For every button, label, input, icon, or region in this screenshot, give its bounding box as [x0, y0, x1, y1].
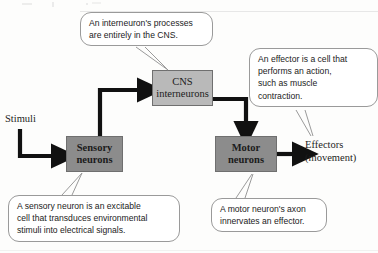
node-sensory-label: Sensory neurons: [77, 142, 113, 167]
node-motor-neurons[interactable]: Motor neurons: [215, 136, 277, 172]
node-motor-label-line1: Motor: [228, 142, 264, 154]
arrow-cns-to-motor: [213, 99, 246, 126]
callout-effector-line4: contraction.: [258, 91, 302, 101]
callout-sensory-line3: stimuli into electrical signals.: [17, 225, 125, 235]
node-sensory-label-line2: neurons: [77, 154, 113, 166]
callout-motor-line1: A motor neuron's axon: [220, 204, 306, 214]
callout-motor-line2: innervates an effector.: [220, 216, 304, 226]
scan-artifact: [22, 3, 32, 5]
callout-motor: A motor neuron's axon innervates an effe…: [211, 198, 327, 232]
node-sensory-label-line1: Sensory: [77, 142, 113, 154]
callout-effector-line3: such as muscle: [258, 78, 317, 88]
arrow-stimuli-to-sensory: [20, 129, 56, 156]
node-cns-interneurons[interactable]: CNS interneurons: [152, 70, 213, 106]
callout-effector-line1: An effector is a cell that: [258, 54, 347, 64]
label-stimuli: Stimuli: [5, 113, 36, 126]
label-effectors-line1: Effectors: [305, 139, 343, 150]
label-effectors-line2: (movement): [305, 152, 356, 163]
arrow-sensory-to-cns: [100, 90, 142, 136]
callout-sensory: A sensory neuron is an excitable cell th…: [8, 195, 180, 242]
scan-artifact: [86, 3, 88, 5]
callout-effector-line2: performs an action,: [258, 66, 332, 76]
callout-sensory-line1: A sensory neuron is an excitable: [17, 201, 141, 211]
leader-effector-inner: [305, 110, 313, 136]
node-motor-label: Motor neurons: [228, 142, 264, 167]
callout-effector: An effector is a cell that performs an a…: [249, 48, 378, 107]
leader-sensory-inner: [72, 173, 82, 195]
scan-artifact: [52, 2, 54, 7]
leader-effector: [296, 110, 311, 136]
node-cns-label-line1: CNS: [156, 76, 209, 88]
leader-motor: [236, 174, 252, 198]
callout-sensory-line2: cell that transduces environmental: [17, 213, 147, 223]
scan-artifact: [92, 2, 101, 4]
leader-interneuron: [136, 47, 168, 70]
callout-interneuron: An interneuron's processes are entirely …: [80, 12, 213, 46]
diagram-canvas: CNS interneurons Sensory neurons Motor n…: [0, 0, 378, 253]
node-sensory-neurons[interactable]: Sensory neurons: [66, 136, 123, 172]
callout-interneuron-line1: An interneuron's processes: [89, 18, 193, 28]
label-effectors: Effectors (movement): [305, 139, 356, 165]
leader-sensory: [62, 173, 82, 195]
leader-interneuron-inner: [145, 47, 168, 70]
leader-motor-inner: [245, 174, 253, 198]
node-motor-label-line2: neurons: [228, 154, 264, 166]
scan-artifact: [0, 250, 378, 251]
callout-interneuron-line2: are entirely in the CNS.: [89, 30, 178, 40]
node-cns-label: CNS interneurons: [156, 76, 209, 101]
node-cns-label-line2: interneurons: [156, 88, 209, 100]
